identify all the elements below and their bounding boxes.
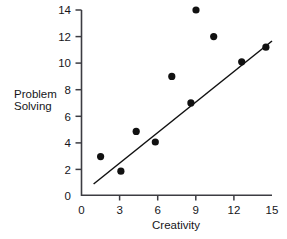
data-point: [187, 99, 194, 106]
chart-screenshot: 14 12 10 8 6 4 2 0 0 3 6 9 12 15 Creativ…: [0, 0, 287, 239]
data-point: [168, 73, 175, 80]
scatter-plot: 14 12 10 8 6 4 2 0 0 3 6 9 12 15 Creativ…: [0, 0, 287, 239]
x-tick-label-3: 3: [116, 204, 122, 216]
data-point: [152, 138, 159, 145]
x-tick-label-0: 0: [78, 204, 84, 216]
x-tick-label-9: 9: [193, 204, 199, 216]
x-tick-label-12: 12: [228, 204, 241, 216]
y-tick-label-8: 8: [65, 84, 71, 96]
data-point: [117, 168, 124, 175]
x-tick-label-6: 6: [154, 204, 160, 216]
data-point: [133, 128, 140, 135]
y-axis-title-line1: Problem: [14, 88, 57, 100]
data-point: [210, 33, 217, 40]
data-point: [262, 44, 269, 51]
x-tick-label-15: 15: [266, 204, 279, 216]
plot-background: [0, 0, 287, 239]
y-axis-title-line2: Solving: [14, 100, 52, 112]
data-point: [97, 153, 104, 160]
y-tick-label-6: 6: [65, 111, 71, 123]
y-tick-label-10: 10: [58, 57, 71, 69]
y-tick-label-14: 14: [58, 4, 71, 16]
data-point: [192, 6, 199, 13]
x-axis-title: Creativity: [152, 219, 200, 231]
y-tick-label-2: 2: [65, 164, 71, 176]
y-tick-label-12: 12: [58, 31, 71, 43]
data-point: [238, 58, 245, 65]
y-tick-label-0: 0: [65, 190, 71, 202]
y-tick-label-4: 4: [65, 137, 72, 149]
